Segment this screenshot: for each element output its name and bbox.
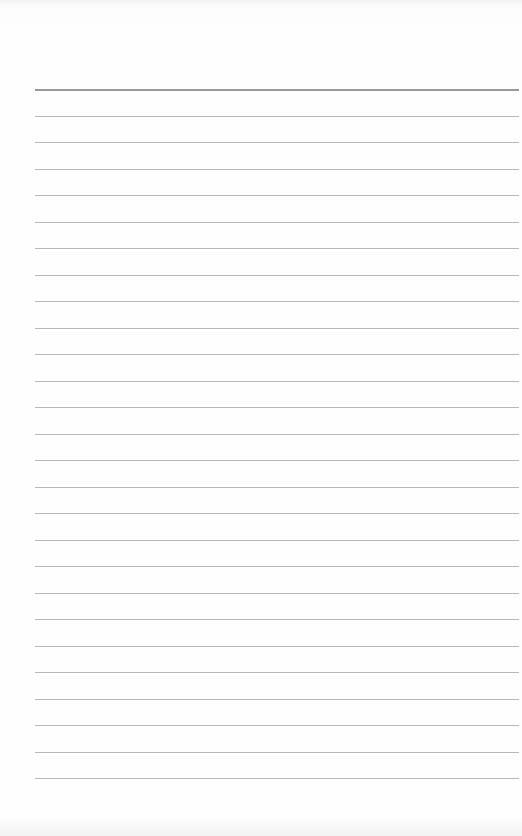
- ruled-line: [35, 725, 519, 726]
- ruled-line: [35, 460, 519, 461]
- ruled-line: [35, 354, 519, 355]
- ruled-line: [35, 699, 519, 700]
- ruled-line: [35, 222, 519, 223]
- ruled-line: [35, 434, 519, 435]
- ruled-line: [35, 142, 519, 143]
- ruled-line: [35, 116, 519, 117]
- ruled-line: [35, 752, 519, 753]
- ruled-line: [35, 275, 519, 276]
- ruled-line: [35, 487, 519, 488]
- ruled-line: [35, 301, 519, 302]
- ruled-line: [35, 513, 519, 514]
- ruled-line: [35, 248, 519, 249]
- ruled-line: [35, 89, 519, 91]
- ruled-line: [35, 195, 519, 196]
- ruled-line: [35, 646, 519, 647]
- ruled-line: [35, 566, 519, 567]
- lined-paper-page: [0, 0, 522, 836]
- ruled-line: [35, 540, 519, 541]
- ruled-line: [35, 381, 519, 382]
- ruled-line: [35, 778, 519, 779]
- ruled-line: [35, 619, 519, 620]
- ruled-line: [35, 328, 519, 329]
- ruled-line: [35, 672, 519, 673]
- ruled-lines: [0, 0, 522, 836]
- ruled-line: [35, 169, 519, 170]
- ruled-line: [35, 407, 519, 408]
- ruled-line: [35, 593, 519, 594]
